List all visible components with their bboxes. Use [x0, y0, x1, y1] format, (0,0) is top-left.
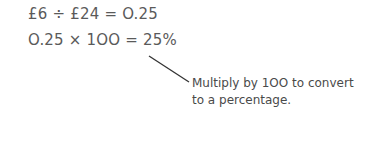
annotation-line-2: to a percentage. [192, 93, 291, 107]
annotation-line-1: Multiply by 1OO to convert [192, 76, 354, 90]
pointer-line-icon [0, 0, 377, 143]
